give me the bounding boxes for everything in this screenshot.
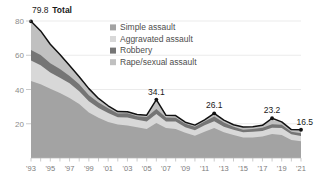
data-label: 34.1 bbox=[148, 87, 165, 97]
y-axis-tick-label: 20 bbox=[15, 120, 24, 129]
y-axis-tick-label: 60 bbox=[15, 51, 24, 60]
total-callout: 79.8 Total bbox=[32, 5, 72, 15]
legend-label: Aggravated assault bbox=[120, 34, 193, 44]
x-axis-tick-label: '21 bbox=[296, 164, 306, 173]
x-axis-tick-label: '01 bbox=[103, 164, 113, 173]
x-axis-tick-label: '99 bbox=[84, 164, 94, 173]
x-axis-tick-label: '05 bbox=[142, 164, 152, 173]
x-axis-tick-label: '09 bbox=[180, 164, 190, 173]
total-callout-label: Total bbox=[52, 5, 72, 15]
legend-swatch bbox=[110, 36, 116, 42]
data-point-marker bbox=[154, 98, 158, 102]
y-axis: 80604020 bbox=[15, 17, 31, 129]
x-axis-tick-label: '15 bbox=[238, 164, 248, 173]
chart-legend: Simple assaultAggravated assaultRobberyR… bbox=[110, 22, 197, 67]
x-axis-tick-label: '03 bbox=[123, 164, 133, 173]
legend-swatch bbox=[110, 24, 116, 30]
data-point-marker bbox=[212, 111, 216, 115]
x-axis-tick-label: '93 bbox=[26, 164, 36, 173]
x-axis-tick-label: '13 bbox=[219, 164, 229, 173]
x-axis-tick-label: '97 bbox=[65, 164, 75, 173]
data-point-marker bbox=[299, 128, 303, 132]
y-axis-tick-label: 80 bbox=[15, 17, 24, 26]
x-axis-tick-label: '95 bbox=[45, 164, 55, 173]
x-axis-tick-label: '17 bbox=[258, 164, 268, 173]
legend-label: Rape/sexual assault bbox=[120, 57, 197, 67]
chart-container: 80604020 '93'95'97'99'01'03'05'07'09'11'… bbox=[0, 0, 314, 183]
y-axis-tick-label: 40 bbox=[15, 86, 24, 95]
data-label: 23.2 bbox=[264, 105, 281, 115]
x-axis-tick-label: '07 bbox=[161, 164, 171, 173]
data-label: 26.1 bbox=[206, 100, 223, 110]
x-axis: '93'95'97'99'01'03'05'07'09'11'13'15'17'… bbox=[26, 158, 306, 173]
legend-label: Robbery bbox=[120, 45, 153, 55]
stacked-area-chart: 80604020 '93'95'97'99'01'03'05'07'09'11'… bbox=[0, 0, 314, 183]
legend-label: Simple assault bbox=[120, 22, 176, 32]
data-label: 16.5 bbox=[296, 117, 313, 127]
legend-swatch bbox=[110, 48, 116, 54]
data-point-marker bbox=[270, 116, 274, 120]
x-axis-tick-label: '19 bbox=[277, 164, 287, 173]
x-axis-tick-label: '11 bbox=[200, 164, 209, 173]
total-callout-value: 79.8 bbox=[32, 5, 49, 15]
legend-swatch bbox=[110, 59, 116, 65]
